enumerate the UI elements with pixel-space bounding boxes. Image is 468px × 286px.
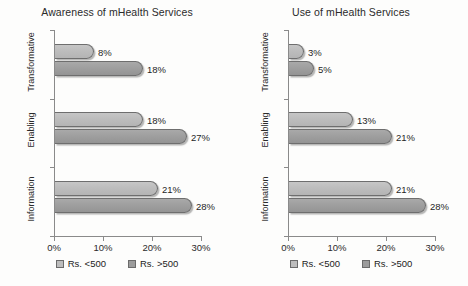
chart-panel-use: Use of mHealth Services 0% 10% 20% 30% T… bbox=[234, 0, 468, 286]
x-axis-line bbox=[288, 236, 435, 237]
legend-label: Rs. <500 bbox=[68, 258, 106, 269]
chart-panel-awareness: Awareness of mHealth Services 0% 10% 20%… bbox=[0, 0, 234, 286]
x-axis-tick bbox=[152, 236, 153, 241]
bar-value-label: 21% bbox=[396, 184, 415, 195]
legend-label: Rs. >500 bbox=[140, 258, 178, 269]
category-label-transformative: Transformative bbox=[26, 27, 36, 97]
x-axis-tick bbox=[337, 236, 338, 241]
y-axis-group-tick bbox=[284, 167, 289, 168]
chart-figure: Awareness of mHealth Services 0% 10% 20%… bbox=[0, 0, 468, 286]
y-axis-group-tick bbox=[50, 236, 55, 237]
category-label-enabling: Enabling bbox=[26, 108, 36, 152]
y-axis-group-tick bbox=[50, 30, 55, 31]
x-axis-tick bbox=[435, 236, 436, 241]
chart-legend: Rs. <500 Rs. >500 bbox=[0, 258, 234, 269]
x-axis-label: 30% bbox=[425, 242, 444, 253]
y-axis-group-tick bbox=[284, 99, 289, 100]
bar bbox=[289, 44, 304, 59]
bar-value-label: 21% bbox=[396, 132, 415, 143]
x-axis-line bbox=[54, 236, 201, 237]
legend-item-rs-lt-500: Rs. <500 bbox=[56, 258, 106, 269]
x-axis-tick bbox=[386, 236, 387, 241]
x-axis-label: 10% bbox=[327, 242, 346, 253]
legend-swatch-icon bbox=[56, 260, 64, 268]
x-axis-label: 20% bbox=[376, 242, 395, 253]
bar-value-label: 8% bbox=[98, 47, 112, 58]
bar bbox=[289, 198, 426, 213]
y-axis-group-tick bbox=[284, 30, 289, 31]
legend-swatch-icon bbox=[362, 260, 370, 268]
bar-value-label: 21% bbox=[162, 184, 181, 195]
legend-item-rs-gt-500: Rs. >500 bbox=[128, 258, 178, 269]
y-axis-group-tick bbox=[50, 99, 55, 100]
bar bbox=[55, 44, 94, 59]
bar bbox=[55, 181, 158, 196]
legend-item-rs-lt-500: Rs. <500 bbox=[290, 258, 340, 269]
chart-title: Use of mHealth Services bbox=[234, 6, 468, 18]
legend-swatch-icon bbox=[290, 260, 298, 268]
y-axis-group-tick bbox=[50, 167, 55, 168]
legend-item-rs-gt-500: Rs. >500 bbox=[362, 258, 412, 269]
chart-legend: Rs. <500 Rs. >500 bbox=[234, 258, 468, 269]
bar-value-label: 27% bbox=[191, 132, 210, 143]
bar bbox=[289, 129, 392, 144]
bar-value-label: 13% bbox=[357, 115, 376, 126]
x-axis-label: 0% bbox=[47, 242, 61, 253]
bar-value-label: 28% bbox=[196, 201, 215, 212]
chart-title: Awareness of mHealth Services bbox=[0, 6, 234, 18]
bar-value-label: 5% bbox=[318, 64, 332, 75]
category-label-information: Information bbox=[26, 171, 36, 227]
x-axis-tick bbox=[103, 236, 104, 241]
bar-value-label: 18% bbox=[147, 64, 166, 75]
x-axis-label: 20% bbox=[142, 242, 161, 253]
legend-label: Rs. <500 bbox=[302, 258, 340, 269]
bar bbox=[289, 181, 392, 196]
bar-value-label: 3% bbox=[308, 47, 322, 58]
y-axis-group-tick bbox=[284, 236, 289, 237]
x-axis-label: 10% bbox=[93, 242, 112, 253]
legend-label: Rs. >500 bbox=[374, 258, 412, 269]
bar bbox=[55, 198, 192, 213]
category-label-transformative: Transformative bbox=[260, 27, 270, 97]
bar bbox=[55, 61, 143, 76]
x-axis-label: 0% bbox=[281, 242, 295, 253]
bar bbox=[289, 112, 353, 127]
category-label-information: Information bbox=[260, 171, 270, 227]
legend-swatch-icon bbox=[128, 260, 136, 268]
x-axis-tick bbox=[201, 236, 202, 241]
bar-value-label: 18% bbox=[147, 115, 166, 126]
category-label-enabling: Enabling bbox=[260, 108, 270, 152]
x-axis-label: 30% bbox=[191, 242, 210, 253]
bar-value-label: 28% bbox=[430, 201, 449, 212]
bar bbox=[55, 129, 187, 144]
bar bbox=[55, 112, 143, 127]
bar bbox=[289, 61, 314, 76]
